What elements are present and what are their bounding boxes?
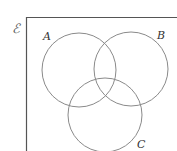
universal-set-label: ℰ <box>12 21 21 36</box>
set-b-label: B <box>156 29 165 42</box>
venn-diagram: ℰ A B C <box>0 0 177 151</box>
set-c-circle <box>68 78 142 151</box>
set-c-label: C <box>137 138 146 151</box>
set-a-label: A <box>42 30 51 43</box>
set-b-circle <box>94 32 168 106</box>
